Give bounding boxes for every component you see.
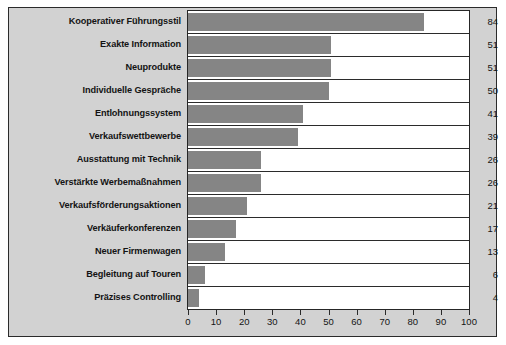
- bar-value-label: 17: [470, 217, 502, 240]
- x-axis-tick-label: 30: [257, 316, 287, 327]
- category-label-column: Kooperativer FührungsstilExakte Informat…: [9, 10, 185, 310]
- x-axis-tick-label: 10: [201, 316, 231, 327]
- category-label: Verstärkte Werbemaßnahmen: [9, 171, 185, 194]
- bar: [188, 243, 225, 261]
- bar-chart: Kooperativer FührungsstilExakte Informat…: [0, 0, 506, 345]
- x-axis-tick: [469, 310, 470, 315]
- x-axis-tick-label: 40: [285, 316, 315, 327]
- bar-value-label: 50: [470, 79, 502, 102]
- category-label: Individuelle Gespräche: [9, 79, 185, 102]
- bar-value-label: 13: [470, 240, 502, 263]
- plot-area: [187, 10, 470, 310]
- x-axis-tick: [357, 310, 358, 315]
- chart-row: [188, 11, 469, 34]
- bar-value-label: 26: [470, 171, 502, 194]
- x-axis-tick: [413, 310, 414, 315]
- x-axis-tick: [216, 310, 217, 315]
- chart-row: [188, 264, 469, 287]
- x-axis-tick-label: 100: [454, 316, 484, 327]
- bar: [188, 13, 424, 31]
- x-axis-tick: [188, 310, 189, 315]
- x-axis-tick: [300, 310, 301, 315]
- category-label: Begleitung auf Touren: [9, 263, 185, 286]
- bar: [188, 128, 298, 146]
- x-axis-tick: [244, 310, 245, 315]
- x-axis-tick-label: 70: [370, 316, 400, 327]
- bar: [188, 36, 331, 54]
- bar-value-label: 51: [470, 56, 502, 79]
- chart-row: [188, 80, 469, 103]
- bar-value-label: 39: [470, 125, 502, 148]
- chart-row: [188, 34, 469, 57]
- chart-row: [188, 287, 469, 310]
- chart-row: [188, 172, 469, 195]
- chart-panel: Kooperativer FührungsstilExakte Informat…: [8, 7, 497, 337]
- bar-value-label: 41: [470, 102, 502, 125]
- chart-row: [188, 57, 469, 80]
- category-label: Verkäuferkonferenzen: [9, 217, 185, 240]
- bar: [188, 105, 303, 123]
- bar: [188, 82, 329, 100]
- x-axis-tick: [385, 310, 386, 315]
- bar-value-label: 26: [470, 148, 502, 171]
- bar: [188, 174, 261, 192]
- value-label-column: 845151504139262621171364: [470, 10, 506, 310]
- category-label: Ausstattung mit Technik: [9, 148, 185, 171]
- chart-row: [188, 218, 469, 241]
- bar: [188, 151, 261, 169]
- x-axis-tick-label: 50: [314, 316, 344, 327]
- bar: [188, 289, 199, 307]
- category-label: Neuer Firmenwagen: [9, 240, 185, 263]
- x-axis: 0102030405060708090100: [187, 310, 470, 334]
- bar-value-label: 51: [470, 33, 502, 56]
- category-label: Präzises Controlling: [9, 286, 185, 309]
- x-axis-tick-label: 0: [173, 316, 203, 327]
- bar-value-label: 4: [470, 286, 502, 309]
- category-label: Verkaufsförderungsaktionen: [9, 194, 185, 217]
- x-axis-tick-label: 80: [398, 316, 428, 327]
- x-axis-tick-label: 60: [342, 316, 372, 327]
- bar: [188, 220, 236, 238]
- chart-row: [188, 149, 469, 172]
- plot-rows: [188, 11, 469, 309]
- bar-value-label: 21: [470, 194, 502, 217]
- bar-value-label: 84: [470, 10, 502, 33]
- category-label: Neuprodukte: [9, 56, 185, 79]
- chart-row: [188, 195, 469, 218]
- chart-row: [188, 126, 469, 149]
- bar-value-label: 6: [470, 263, 502, 286]
- chart-row: [188, 241, 469, 264]
- x-axis-tick-label: 90: [426, 316, 456, 327]
- bar: [188, 59, 331, 77]
- category-label: Kooperativer Führungsstil: [9, 10, 185, 33]
- category-label: Exakte Information: [9, 33, 185, 56]
- category-label: Verkaufswettbewerbe: [9, 125, 185, 148]
- chart-row: [188, 103, 469, 126]
- x-axis-tick: [329, 310, 330, 315]
- bar: [188, 266, 205, 284]
- x-axis-tick-label: 20: [229, 316, 259, 327]
- x-axis-tick: [441, 310, 442, 315]
- bar: [188, 197, 247, 215]
- x-axis-tick: [272, 310, 273, 315]
- category-label: Entlohnungssystem: [9, 102, 185, 125]
